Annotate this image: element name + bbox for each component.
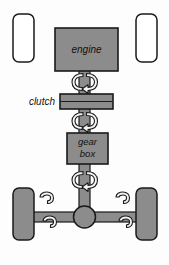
wheel-rear-left <box>13 188 34 240</box>
rotation-axle-right-upper-icon <box>116 192 130 204</box>
wheel-rear-right <box>136 188 157 240</box>
wheel-front-left <box>13 14 34 62</box>
gearbox-label-line1: gear <box>78 136 98 147</box>
clutch-block <box>60 94 113 109</box>
drivetrain-svg-canvas: engine clutch gear box <box>0 0 169 265</box>
differential <box>74 206 96 228</box>
drivetrain-diagram: engine clutch gear box <box>0 0 169 265</box>
engine-label: engine <box>71 44 101 55</box>
gearbox-label-line2: box <box>80 148 97 159</box>
wheel-front-right <box>136 14 157 62</box>
gearbox-block: gear box <box>67 133 108 164</box>
engine-block: engine <box>55 28 118 71</box>
clutch-label: clutch <box>29 96 56 107</box>
rotation-axle-left-upper-icon <box>40 192 54 204</box>
